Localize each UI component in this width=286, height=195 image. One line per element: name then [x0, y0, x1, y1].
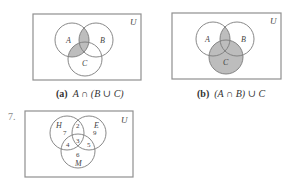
caption-b-expr: (A ∩ B) ∪ C — [214, 88, 265, 99]
count-e-and-m: 5 — [87, 141, 91, 149]
caption-b: (b) (A ∩ B) ∪ C — [197, 88, 265, 99]
label-a-universe: U — [130, 17, 137, 27]
count-h-and-e: 2 — [76, 122, 80, 130]
venn-diagram-b: A B C U — [172, 13, 281, 79]
count-h-and-m: 4 — [66, 141, 70, 149]
count-h-only: 7 — [63, 129, 67, 137]
venn-diagram-a: A B C U — [33, 14, 141, 80]
venn-diagram-exercise-7: H E M 7 2 9 4 3 5 6 U — [25, 111, 133, 177]
label-a-set-b: B — [100, 36, 105, 45]
label-7-universe: U — [121, 115, 128, 125]
label-a-set-a: A — [65, 36, 71, 45]
caption-b-tag: (b) — [197, 88, 209, 99]
count-m-only: 6 — [76, 151, 80, 159]
count-e-only: 9 — [93, 129, 97, 137]
label-a-set-c: C — [82, 59, 88, 68]
label-7-set-m: M — [74, 159, 83, 168]
caption-a-expr: A ∩ (B ∪ C) — [73, 88, 124, 99]
label-b-set-c: C — [223, 58, 229, 67]
caption-a: (a) A ∩ (B ∪ C) — [56, 88, 124, 99]
label-b-set-a: A — [204, 35, 210, 44]
label-b-set-b: B — [241, 35, 246, 44]
exercise-number: 7. — [8, 111, 16, 122]
caption-a-tag: (a) — [56, 88, 68, 99]
label-b-universe: U — [270, 16, 277, 26]
count-all-three: 3 — [76, 137, 80, 145]
